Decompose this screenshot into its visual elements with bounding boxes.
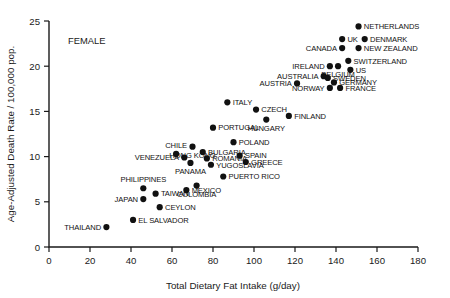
y-tick-label-25: 25 [29,16,40,27]
x-tick-label-160: 160 [369,255,385,266]
data-point-poland [230,139,236,145]
data-point-ireland [327,63,333,69]
y-tick-label-10: 10 [29,151,40,162]
data-point-norway [327,85,333,91]
data-point-label-portugal: PORTUGAL [218,123,259,132]
data-point-label-czech: CZECH [261,105,287,114]
data-point-new-zealand [355,45,361,51]
x-tick-label-0: 0 [46,255,51,266]
data-point-label-netherlands: NETHERLANDS [364,22,419,31]
x-tick-label-180: 180 [410,255,426,266]
data-point-label-yugoslavia: YUGOSLAVIA [216,161,264,170]
data-point-label-france: FRANCE [345,84,376,93]
x-tick-label-140: 140 [328,255,344,266]
data-point-label-finland: FINLAND [294,112,326,121]
data-point-belgium [335,63,341,69]
x-tick-label-80: 80 [208,255,219,266]
data-point-taiwan [153,191,159,197]
scatter-chart: 0204060801001201401601800510152025 NETHE… [0,0,450,298]
y-axis-title: Age-Adjusted Death Rate / 100,000 pop. [5,46,16,222]
data-point-portugal [210,125,216,131]
data-point-label-ceylon: CEYLON [165,203,196,212]
data-point-el-salvador [130,217,136,223]
data-point-label-layer: NETHERLANDSUKDENMARKCANADANEW ZEALANDSWI… [64,22,419,232]
y-tick-label-20: 20 [29,61,40,72]
data-point-label-new-zealand: NEW ZEALAND [364,44,418,53]
data-point-label-uk: UK [347,35,357,44]
axis-spines [49,21,418,247]
plot-area: 0204060801001201401601800510152025 NETHE… [0,0,450,298]
data-point-ceylon [157,204,163,210]
data-point-label-ireland: IRELAND [292,62,325,71]
x-tick-label-40: 40 [126,255,137,266]
data-point-label-philippines: PHILIPPINES [120,175,166,184]
data-point-philippines [140,185,146,191]
data-point-label-taiwan: TAIWAN [161,189,189,198]
data-point-label-thailand: THAILAND [64,223,101,232]
data-point-label-japan: JAPAN [115,195,138,204]
data-point-label-mexico: MEXICO [192,186,222,195]
data-point-label-panama: PANAMA [175,167,207,176]
x-axis-title: Total Dietary Fat Intake (g/day) [166,280,300,291]
data-point-italy [224,99,230,105]
data-point-hong-kong [189,144,195,150]
data-point-label-italy: ITALY [233,98,253,107]
data-point-label-puerto-rico: PUERTO RICO [229,172,281,181]
data-point-label-el-salvador: EL SALVADOR [138,216,189,225]
x-tick-label-60: 60 [167,255,178,266]
data-point-label-denmark: DENMARK [370,35,407,44]
data-point-label-canada: CANADA [306,44,338,53]
axis-layer [49,21,418,247]
x-tick-label-100: 100 [246,255,262,266]
data-point-label-poland: POLAND [239,138,270,147]
data-point-switzerland [345,58,351,64]
data-point-thailand [103,224,109,230]
data-point-japan [140,196,146,202]
data-point-label-chile: CHILE [165,141,187,150]
panel-annotation: FEMALE [68,35,106,46]
data-point-netherlands [355,23,361,29]
data-point-denmark [362,36,368,42]
y-tick-label-0: 0 [35,242,40,253]
y-tick-label-5: 5 [35,196,40,207]
data-point-label-austria: AUSTRIA [260,79,293,88]
data-point-uk [339,36,345,42]
data-point-label-venezuela: VENEZUELA [135,153,180,162]
x-tick-label-120: 120 [287,255,303,266]
data-point-label-switzerland: SWITZERLAND [354,57,408,66]
data-point-label-norway: NORWAY [292,84,325,93]
data-point-puerto-rico [220,173,226,179]
x-tick-label-20: 20 [85,255,96,266]
data-point-canada [339,45,345,51]
data-point-czech [253,106,259,112]
data-point-hungary [263,116,269,122]
y-tick-label-15: 15 [29,106,40,117]
data-point-panama [187,160,193,166]
